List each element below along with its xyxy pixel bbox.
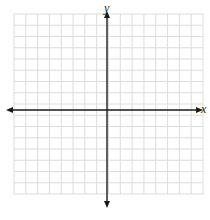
grid xyxy=(0,0,210,220)
x-axis-label: x xyxy=(201,103,206,115)
axes xyxy=(6,11,203,208)
coordinate-plane: y x xyxy=(0,0,210,220)
y-axis-down-arrow-icon xyxy=(104,201,110,208)
y-axis-label: y xyxy=(104,2,109,14)
grid-lines xyxy=(14,14,203,194)
x-axis-left-arrow-icon xyxy=(6,107,13,113)
